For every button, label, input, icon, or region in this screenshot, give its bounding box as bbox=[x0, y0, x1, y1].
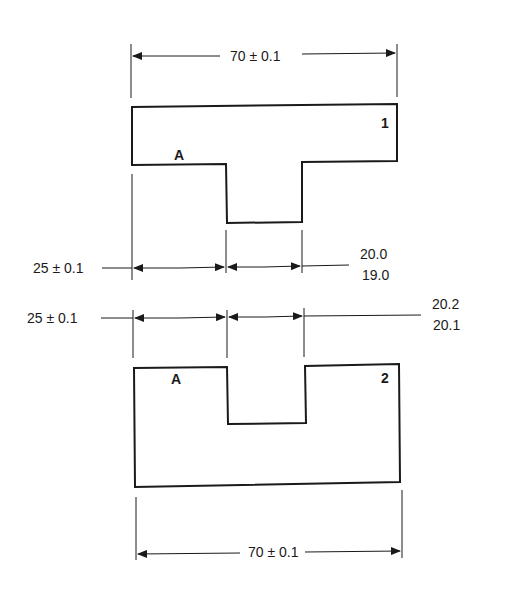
part-1: 70 ± 0.1 1 A 25 ± 0.1 20.0 19.0 bbox=[33, 44, 397, 283]
part2-number: 2 bbox=[381, 370, 389, 386]
part1-face-label: A bbox=[174, 147, 184, 163]
part2-slot-lower-limit: 20.1 bbox=[433, 317, 460, 333]
part2-width-label: 70 ± 0.1 bbox=[248, 544, 299, 560]
part1-number: 1 bbox=[381, 115, 389, 131]
part2-offset-label: 25 ± 0.1 bbox=[27, 310, 78, 326]
part2-face-label: A bbox=[171, 371, 181, 387]
part1-width-label: 70 ± 0.1 bbox=[230, 48, 281, 64]
engineering-drawing: 70 ± 0.1 1 A 25 ± 0.1 20.0 19.0 25 ± 0.1 bbox=[0, 0, 514, 615]
part1-tab-upper-limit: 20.0 bbox=[360, 246, 387, 262]
part1-offset-label: 25 ± 0.1 bbox=[33, 260, 84, 276]
part2-slot-upper-limit: 20.2 bbox=[432, 296, 459, 312]
part1-tab-lower-limit: 19.0 bbox=[362, 267, 389, 283]
part1-outline bbox=[132, 104, 397, 223]
part-2: 25 ± 0.1 20.2 20.1 A 2 70 ± 0.1 bbox=[27, 296, 460, 560]
